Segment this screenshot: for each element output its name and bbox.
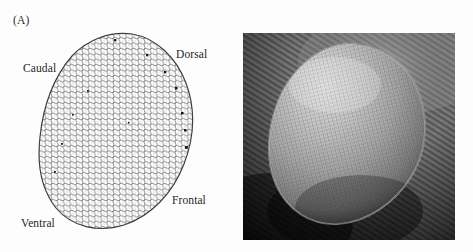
panel-a-label: (A) [13, 14, 30, 26]
panel-a: (A) [0, 0, 236, 252]
axis-label-dorsal: Dorsal [176, 48, 207, 60]
axis-label-frontal: Frontal [172, 194, 206, 206]
compound-eye-sem-micrograph [243, 33, 455, 240]
figure-root: (A) [0, 0, 473, 252]
axis-label-ventral: Ventral [21, 217, 55, 229]
axis-label-caudal: Caudal [23, 62, 56, 74]
panel-b: (B) [236, 0, 473, 252]
